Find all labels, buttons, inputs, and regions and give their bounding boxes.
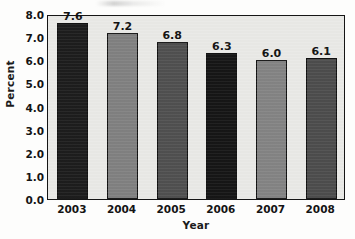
bar-value-label-2003: 7.6 — [51, 11, 95, 23]
plot-inner: 7.67.26.86.36.06.1 — [48, 16, 344, 199]
y-axis-tick: 6.0 — [16, 56, 44, 67]
bar-value-label-2006: 6.3 — [200, 41, 244, 53]
bar-chart: Percent 8.07.06.05.04.03.02.01.00.0 7.67… — [0, 0, 355, 239]
bar-value-label-2004: 7.2 — [101, 21, 145, 33]
bar-2004 — [107, 33, 138, 200]
y-axis-title: Percent — [4, 49, 16, 119]
x-axis-tick-2006: 2006 — [196, 203, 246, 215]
bar-2005 — [157, 42, 188, 199]
y-axis-tick: 3.0 — [16, 126, 44, 137]
y-axis-tick: 0.0 — [16, 195, 44, 206]
y-axis-tick: 2.0 — [16, 149, 44, 160]
bar-value-label-2005: 6.8 — [150, 30, 194, 42]
x-axis-tick-2003: 2003 — [47, 203, 97, 215]
bar-2003 — [57, 23, 88, 199]
x-axis-tick-labels: 200320042005200620072008 — [47, 203, 345, 219]
plot-area: 7.67.26.86.36.06.1 — [47, 15, 345, 200]
x-axis-title: Year — [47, 219, 345, 231]
bar-2006 — [206, 53, 237, 199]
y-axis-tick-labels: 8.07.06.05.04.03.02.01.00.0 — [16, 10, 44, 202]
y-axis-tick: 8.0 — [16, 10, 44, 21]
bar-2007 — [256, 60, 287, 199]
y-axis-tick: 1.0 — [16, 172, 44, 183]
y-axis-tick: 7.0 — [16, 33, 44, 44]
x-axis-tick-2008: 2008 — [295, 203, 345, 215]
x-axis-tick-2007: 2007 — [246, 203, 296, 215]
bar-value-label-2007: 6.0 — [250, 48, 294, 60]
y-axis-tick: 5.0 — [16, 79, 44, 90]
x-axis-tick-2004: 2004 — [97, 203, 147, 215]
x-axis-tick-2005: 2005 — [146, 203, 196, 215]
bar-2008 — [306, 58, 337, 199]
scan-artifact — [96, 1, 166, 6]
y-axis-tick: 4.0 — [16, 103, 44, 114]
bar-value-label-2008: 6.1 — [299, 46, 343, 58]
